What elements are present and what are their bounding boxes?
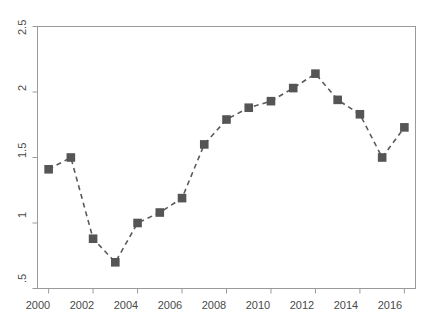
plot-area — [0, 0, 430, 327]
data-point-marker — [400, 123, 409, 132]
chart-container: 2.5 2 1.5 1 .5 2000 2002 2004 2006 2008 … — [0, 0, 430, 327]
data-point-marker — [111, 258, 120, 267]
data-point-marker — [289, 84, 298, 93]
data-point-marker — [222, 115, 231, 124]
data-point-marker — [133, 219, 142, 228]
data-point-marker — [378, 153, 387, 162]
data-point-marker — [356, 110, 365, 119]
data-point-marker — [311, 69, 320, 78]
data-markers — [44, 69, 408, 266]
data-line — [49, 74, 405, 263]
axis-frame — [38, 27, 416, 289]
data-point-marker — [155, 208, 164, 217]
data-point-marker — [44, 165, 53, 174]
data-point-marker — [200, 140, 209, 149]
x-axis-ticks — [49, 289, 405, 294]
y-axis-ticks — [33, 27, 38, 289]
data-point-marker — [67, 153, 76, 162]
data-point-marker — [178, 194, 187, 203]
data-point-marker — [267, 97, 276, 106]
data-point-marker — [89, 234, 98, 243]
data-point-marker — [244, 103, 253, 112]
data-point-marker — [333, 96, 342, 105]
